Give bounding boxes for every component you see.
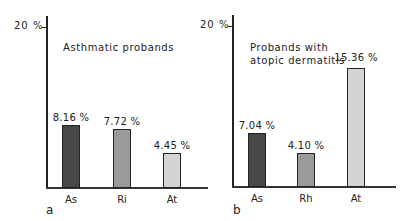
category-label-as-b: As bbox=[242, 193, 272, 204]
bar-rh-b bbox=[297, 153, 315, 187]
panel-letter-b: b bbox=[233, 203, 241, 217]
bar-at-b bbox=[347, 68, 365, 187]
panel-letter-a: a bbox=[46, 203, 53, 217]
value-label-as-b: 7.04 % bbox=[232, 120, 282, 131]
bar-ri-a bbox=[113, 129, 131, 188]
bar-at-a bbox=[163, 153, 181, 188]
category-label-at-b: At bbox=[341, 193, 371, 204]
ytick-20-a: 20 % bbox=[14, 20, 43, 31]
chart-title-a: Asthmatic probands bbox=[63, 41, 174, 54]
value-label-at-b: 15.36 % bbox=[331, 52, 381, 63]
ytick-20-b: 20 % bbox=[200, 19, 229, 30]
category-label-ri-a: Ri bbox=[107, 194, 137, 205]
y-axis-b bbox=[232, 15, 234, 187]
value-label-rh-b: 4.10 % bbox=[281, 140, 331, 151]
bar-as-a bbox=[62, 125, 80, 188]
value-label-at-a: 4.45 % bbox=[147, 140, 197, 151]
value-label-ri-a: 7.72 % bbox=[97, 116, 147, 127]
bar-as-b bbox=[248, 133, 266, 187]
y-axis-a bbox=[46, 16, 48, 189]
value-label-as-a: 8.16 % bbox=[46, 112, 96, 123]
category-label-rh-b: Rh bbox=[291, 193, 321, 204]
category-label-at-a: At bbox=[157, 194, 187, 205]
category-label-as-a: As bbox=[56, 194, 86, 205]
